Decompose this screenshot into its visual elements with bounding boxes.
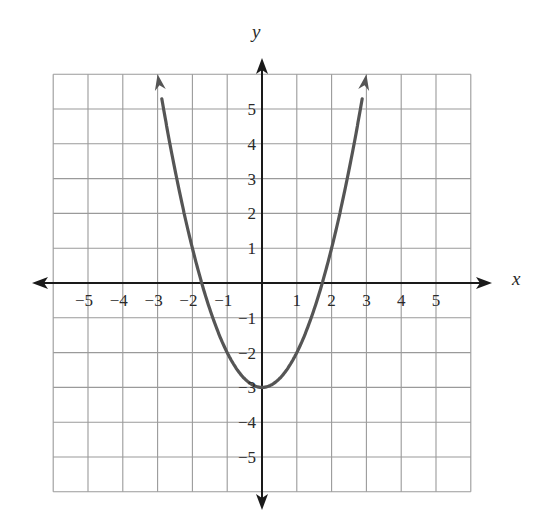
x-tick-label: −5 xyxy=(75,291,93,310)
y-tick-label: 5 xyxy=(248,100,257,119)
y-tick-label: 3 xyxy=(248,170,257,189)
y-tick-label: −3 xyxy=(238,378,256,397)
curve-right-arrow-icon xyxy=(358,74,369,91)
y-tick-label: −1 xyxy=(238,309,256,328)
y-tick-label: 2 xyxy=(248,204,257,223)
axes xyxy=(32,58,492,510)
y-tick-label: 1 xyxy=(248,239,257,258)
x-tick-label: 4 xyxy=(397,291,406,310)
x-axis-label: x xyxy=(511,268,521,289)
y-tick-label: 4 xyxy=(248,135,257,154)
y-tick-label: −2 xyxy=(238,344,256,363)
curve-left-arrow-icon xyxy=(155,74,166,91)
x-tick-label: 5 xyxy=(432,291,441,310)
x-tick-label: −3 xyxy=(145,291,163,310)
y-tick-label: −4 xyxy=(238,413,257,432)
x-tick-label: 1 xyxy=(293,291,302,310)
x-tick-label: −1 xyxy=(214,291,232,310)
x-tick-label: 2 xyxy=(327,291,336,310)
y-tick-label: −5 xyxy=(238,448,256,467)
y-axis-label: y xyxy=(250,21,261,42)
x-tick-label: 3 xyxy=(362,291,371,310)
x-tick-label: −2 xyxy=(179,291,197,310)
parabola-graph: −5−4−3−2−11234554321−1−2−3−4−5 x y xyxy=(0,0,546,531)
x-tick-label: −4 xyxy=(110,291,129,310)
